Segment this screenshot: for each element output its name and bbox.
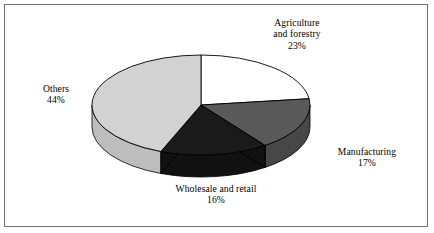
slice-value-others: 44%	[20, 94, 92, 105]
pie-chart-area: Agriculture and forestry 23% Manufacturi…	[0, 0, 434, 233]
slice-label-others: Others 44%	[20, 83, 92, 106]
slice-label-agriculture-and-forestry: Agriculture and forestry 23%	[238, 17, 356, 51]
slice-label-wholesale-line1: Wholesale and retail	[176, 183, 257, 194]
slice-label-others-line1: Others	[43, 83, 69, 94]
slice-value-agriculture: 23%	[238, 40, 356, 51]
slice-label-agriculture-line2: and forestry	[273, 28, 320, 39]
slice-label-manufacturing: Manufacturing 17%	[306, 146, 428, 169]
slice-label-manufacturing-line1: Manufacturing	[338, 146, 396, 157]
slice-label-agriculture-line1: Agriculture	[274, 17, 319, 28]
pie-slice-agriculture-and-forestry	[201, 55, 309, 105]
slice-value-wholesale: 16%	[140, 194, 292, 205]
slice-value-manufacturing: 17%	[306, 157, 428, 168]
pie-chart-screenshot: Agriculture and forestry 23% Manufacturi…	[0, 0, 434, 233]
slice-label-wholesale-and-retail: Wholesale and retail 16%	[140, 183, 292, 206]
